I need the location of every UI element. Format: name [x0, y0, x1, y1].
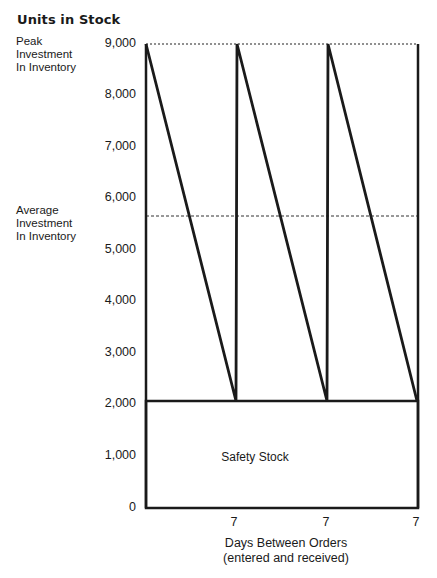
x-axis-label: Days Between Orders (entered and receive…: [196, 536, 376, 566]
x-axis-label-line2: (entered and received): [196, 551, 376, 566]
x-tick: 7: [406, 515, 426, 529]
x-tick: 7: [316, 515, 336, 529]
x-tick: 7: [224, 515, 244, 529]
safety-stock-label: Safety Stock: [200, 450, 310, 464]
inventory-sawtooth-line: [146, 44, 417, 401]
x-axis-label-line1: Days Between Orders: [196, 536, 376, 551]
plot-area: [0, 0, 437, 578]
